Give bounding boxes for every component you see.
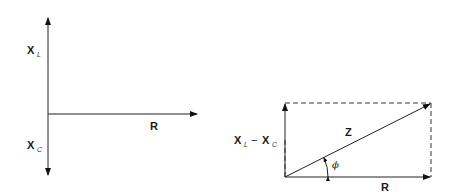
r-label-left: R [150, 120, 158, 132]
xl-label-subscript: L [37, 51, 41, 58]
impedance-triangle [285, 103, 431, 177]
impedance-diagram: X L X C R X L − X C Z ϕ R [0, 0, 454, 192]
xl-minus-xc-main1: X [234, 134, 242, 146]
phi-label: ϕ [332, 159, 339, 170]
minus-sign: − [251, 134, 257, 146]
xl-minus-xc-sub1: L [244, 141, 248, 148]
phasor-axes [48, 18, 197, 175]
xl-minus-xc-main2: X [262, 134, 270, 146]
z-label: Z [345, 126, 352, 138]
xl-minus-xc-sub2: C [272, 141, 278, 148]
r-label-right: R [381, 181, 389, 192]
xc-label: X [27, 139, 35, 151]
phase-angle-arc [324, 158, 328, 177]
impedance-vector [285, 104, 430, 177]
xl-label: X [27, 44, 35, 56]
xc-label-subscript: C [37, 146, 43, 153]
